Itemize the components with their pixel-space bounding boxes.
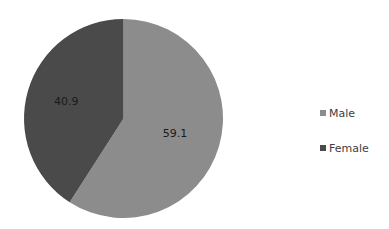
pie-slices (24, 19, 223, 218)
legend-label-female: Female (329, 142, 369, 155)
data-label-male: 59.1 (163, 127, 188, 140)
legend-marker-female-icon (320, 145, 326, 151)
chart-legend: Male Female (320, 106, 389, 176)
legend-marker-male-icon (320, 110, 326, 116)
legend-item-male: Male (320, 106, 389, 120)
legend-item-female: Female (320, 141, 389, 155)
data-label-female: 40.9 (54, 95, 79, 108)
legend-label-male: Male (329, 107, 355, 120)
